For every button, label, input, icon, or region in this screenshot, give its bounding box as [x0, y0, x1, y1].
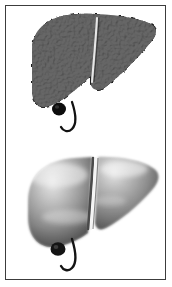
cirrhotic-shading — [6, 6, 165, 139]
normal-liver-illustration — [6, 139, 165, 279]
normal-gallbladder — [51, 242, 66, 256]
panel-normal-liver — [6, 139, 165, 279]
normal-liver-left-shading — [6, 139, 165, 279]
normal-liver-right-lobe — [6, 139, 165, 279]
figure-root: Comparison of cirrhotic and normal liver… — [0, 0, 172, 287]
panel-cirrhotic-liver — [6, 6, 165, 139]
cirrhotic-liver-illustration — [6, 6, 165, 139]
figure-frame — [5, 5, 166, 280]
normal-gallbladder-highlight — [54, 245, 59, 249]
cirrhotic-gallbladder-highlight — [55, 105, 59, 109]
cirrhotic-gallbladder — [52, 103, 66, 116]
